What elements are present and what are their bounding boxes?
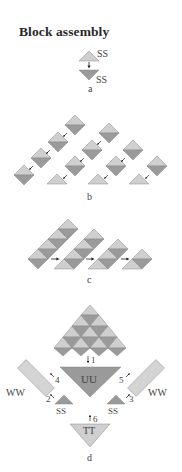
step-5: 5 — [119, 375, 124, 385]
step-4: 4 — [55, 375, 60, 385]
panel-label-a: a — [88, 83, 93, 94]
light-triangle-ss — [79, 51, 99, 61]
panel-b: b — [14, 115, 167, 202]
step-6: 6 — [93, 414, 98, 424]
label-ss-top: SS — [97, 48, 108, 59]
label-ss-right: SS — [108, 406, 118, 416]
assembled-pyramid — [45, 305, 126, 359]
block-assembly-diagram: SS SS a b — [0, 0, 182, 472]
label-tt: TT — [83, 425, 95, 436]
step-1: 1 — [91, 355, 96, 365]
panel-d: 1 UU WW WW 4 5 SS 2 SS 3 6 TT d — [6, 305, 167, 463]
label-ss-bottom: SS — [96, 74, 107, 85]
panel-c: c — [28, 219, 152, 285]
panel-label-c: c — [87, 274, 92, 285]
label-ss-left: SS — [56, 406, 66, 416]
panel-label-d: d — [87, 452, 92, 463]
panel-label-b: b — [87, 191, 92, 202]
label-ww-left: WW — [6, 387, 25, 398]
label-ww-right: WW — [148, 387, 167, 398]
step-2: 2 — [46, 394, 51, 404]
ss-block-right — [107, 395, 125, 404]
panel-a: SS SS a — [79, 48, 108, 94]
ss-block-left — [55, 395, 73, 404]
label-uu: UU — [81, 373, 97, 385]
step-3: 3 — [129, 394, 134, 404]
